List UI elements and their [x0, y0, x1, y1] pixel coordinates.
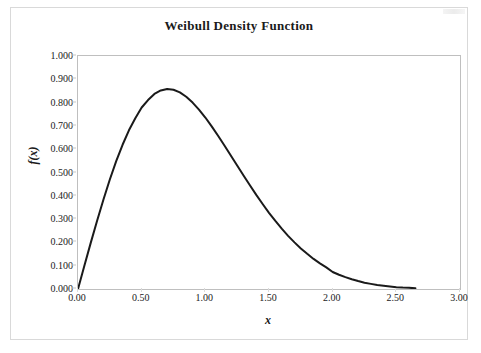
x-axis-title-text: x	[265, 313, 271, 327]
x-tick-label: 0.00	[52, 292, 102, 303]
x-tick-label: 1.00	[179, 292, 229, 303]
x-tick-label: 0.50	[116, 292, 166, 303]
density-curve	[78, 89, 415, 289]
x-axis-title: x	[77, 313, 459, 328]
x-axis-tick-labels: 0.000.501.001.502.002.503.00	[77, 292, 459, 308]
y-tick-mark	[71, 148, 76, 149]
y-tick-mark	[71, 124, 76, 125]
y-tick-mark	[71, 78, 76, 79]
x-tick-label: 3.00	[434, 292, 481, 303]
y-tick-mark	[71, 101, 76, 102]
chart-title: Weibull Density Function	[11, 18, 467, 34]
y-tick-mark	[71, 55, 76, 56]
y-tick-mark	[71, 218, 76, 219]
x-tick-label: 2.00	[307, 292, 357, 303]
y-axis-tick-marks	[11, 55, 81, 288]
y-tick-mark	[71, 288, 76, 289]
y-tick-mark	[71, 171, 76, 172]
plot-svg	[78, 56, 460, 289]
x-tick-label: 1.50	[243, 292, 293, 303]
x-tick-label: 2.50	[370, 292, 420, 303]
y-tick-mark	[71, 241, 76, 242]
y-tick-mark	[71, 194, 76, 195]
y-tick-mark	[71, 264, 76, 265]
chart-card: Weibull Density Function f(x) 0.0000.100…	[10, 7, 468, 340]
plot-area	[77, 55, 461, 290]
corner-artifact	[443, 9, 465, 14]
